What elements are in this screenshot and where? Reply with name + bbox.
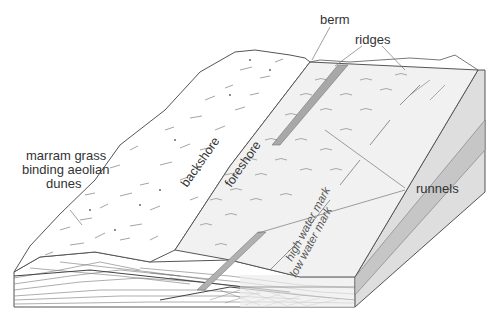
marram-label-line3: dunes — [46, 176, 82, 191]
berm-label: berm — [320, 12, 350, 27]
marram-label-line1: marram grass — [26, 148, 107, 163]
ridges-label: ridges — [355, 32, 391, 47]
runnels-label: runnels — [416, 181, 459, 196]
marram-label-line2: binding aeolian — [22, 162, 109, 177]
beach-block-diagram: backshore foreshore high water mark low … — [0, 0, 495, 323]
